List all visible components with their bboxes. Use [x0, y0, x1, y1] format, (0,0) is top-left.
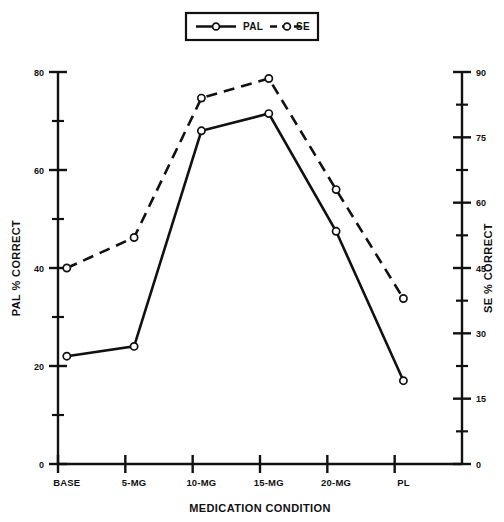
data-point-pal-20-mg [333, 228, 340, 235]
chart-figure: PAL SE 020406080 0153045607590 BASE5-MG1… [0, 0, 504, 522]
legend-marker-se [284, 23, 291, 30]
x-axis: BASE5-MG10-MG15-MG20-MGPL [53, 455, 462, 488]
x-axis-category-label: 5-MG [122, 477, 147, 488]
y-axis-left-tick-label: 20 [34, 362, 44, 372]
data-point-pal-10-mg [198, 127, 205, 134]
data-point-se-20-mg [333, 186, 340, 193]
y-axis-right-tick-label: 60 [476, 198, 486, 208]
y-axis-right-tick-label: 90 [476, 68, 486, 78]
x-axis-category-label: 10-MG [186, 477, 216, 488]
x-axis-category-label: PL [397, 477, 410, 488]
data-point-pal-pl [400, 377, 407, 384]
y-axis-right-tick-label: 75 [476, 133, 486, 143]
data-point-se-5-mg [131, 234, 138, 241]
legend-label-se: SE [296, 21, 310, 32]
x-axis-category-label: 15-MG [254, 477, 284, 488]
y-axis-right-tick-label: 30 [476, 329, 486, 339]
y-axis-left: 020406080 [34, 68, 67, 470]
legend-label-pal: PAL [243, 21, 263, 32]
series-layer [63, 75, 407, 384]
data-point-se-base [63, 264, 70, 271]
y-axis-right-tick-label: 15 [476, 394, 486, 404]
y-axis-left-title: PAL % CORRECT [10, 220, 22, 316]
data-point-se-15-mg [265, 75, 272, 82]
y-axis-left-tick-label: 40 [34, 264, 44, 274]
data-point-pal-5-mg [131, 343, 138, 350]
data-point-se-10-mg [198, 95, 205, 102]
x-axis-category-label: BASE [53, 477, 80, 488]
series-line-pal [67, 114, 404, 381]
y-axis-left-tick-label: 80 [34, 68, 44, 78]
data-point-se-pl [400, 295, 407, 302]
y-axis-right-tick-label: 0 [476, 460, 481, 470]
data-point-pal-15-mg [265, 110, 272, 117]
data-point-pal-base [63, 353, 70, 360]
chart-legend: PAL SE [186, 13, 318, 40]
x-axis-title: MEDICATION CONDITION [189, 502, 331, 514]
line-chart-canvas: PAL SE 020406080 0153045607590 BASE5-MG1… [0, 0, 504, 522]
legend-marker-pal [213, 23, 220, 30]
y-axis-left-tick-label: 0 [39, 460, 44, 470]
y-axis-right-title: SE % CORRECT [482, 223, 494, 313]
y-axis-left-tick-label: 60 [34, 166, 44, 176]
x-axis-category-label: 20-MG [321, 477, 351, 488]
